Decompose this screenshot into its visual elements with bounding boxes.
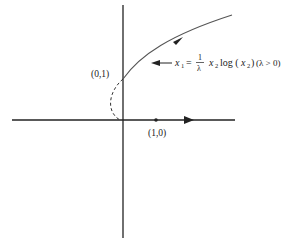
fraction-numerator: 1 [198, 53, 202, 62]
dashed-curve-segment [111, 79, 123, 120]
lambda-condition: (λ > 0) [256, 58, 280, 68]
equation-lhs-sub: 1 [181, 62, 184, 69]
equation-pointer-arrow-icon [151, 60, 160, 66]
equation-lhs: x [174, 57, 180, 68]
equation-log-x-sub: 2 [247, 62, 250, 69]
phase-diagram: (0,1) (1,0) x 1 = 1 λ x 2 log ( x 2 ) (λ… [0, 0, 288, 243]
fraction-denominator: λ [197, 64, 201, 73]
equation-rhs-x: x [208, 57, 214, 68]
equation-log: log ( [220, 57, 239, 69]
equation-equals: = [186, 57, 192, 68]
point-0-1-label: (0,1) [91, 69, 109, 80]
solution-curve [123, 15, 232, 79]
point-1-0-marker [154, 118, 158, 122]
point-1-0-label: (1,0) [148, 128, 166, 139]
equation-rhs-x-sub: 2 [215, 62, 218, 69]
equation-close-paren: ) [251, 57, 254, 69]
equation-log-x: x [240, 57, 246, 68]
x-axis-flow-arrow-icon [184, 116, 194, 124]
